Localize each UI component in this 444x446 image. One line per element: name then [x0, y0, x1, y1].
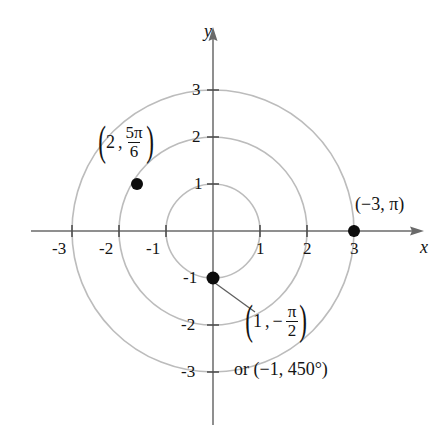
point-label-comma-2: ,: [265, 312, 270, 330]
x-axis-arrowhead: [410, 227, 424, 236]
point-label-radius: 2: [106, 133, 115, 151]
x-axis-label: x: [420, 238, 428, 256]
coordinate-plane-graphic: [0, 0, 444, 446]
theta-denominator: 6: [128, 142, 141, 161]
x-tick-label-3: 3: [350, 240, 359, 257]
right-paren-glyph-2: ): [299, 305, 307, 337]
point-label-comma: ,: [118, 133, 123, 151]
plot-point-1-neg-pi-2: [207, 272, 220, 285]
theta-numerator-2: π: [286, 303, 299, 321]
theta-denominator-2: 2: [286, 321, 299, 340]
y-tick-label--3: -3: [181, 363, 195, 380]
x-tick-label--3: -3: [52, 240, 66, 257]
y-tick-label--1: -1: [183, 269, 197, 286]
y-tick-label-2: 2: [192, 128, 201, 145]
point-label-2-5pi-6: ( 2 , 5π 6 ): [95, 124, 157, 160]
alternate-point-label: or (−1, 450°): [234, 360, 328, 378]
plot-point-2-5pi-6: [131, 178, 143, 190]
theta-fraction-2: π 2: [286, 303, 299, 339]
y-tick-label-1: 1: [194, 175, 203, 192]
polar-coordinates-figure: y x -3 -2 -1 1 2 3 3 2 1 -1 -2 -3 ( 2 , …: [0, 0, 444, 446]
point-label-radius-2: 1: [253, 312, 262, 330]
y-tick-label-3: 3: [192, 81, 201, 98]
x-tick-label--2: -2: [99, 240, 113, 257]
x-tick-label-1: 1: [256, 240, 265, 257]
left-paren-glyph: (: [98, 126, 106, 158]
right-paren-glyph: ): [146, 126, 154, 158]
point-label-neg3-pi: (−3, π): [355, 195, 404, 213]
point-label-1-neg-pi-2: ( 1 , − π 2 ): [242, 303, 310, 339]
y-tick-label--2: -2: [181, 316, 195, 333]
theta-fraction: 5π 6: [124, 124, 145, 160]
left-paren-glyph-2: (: [245, 305, 253, 337]
theta-numerator: 5π: [124, 124, 145, 142]
theta-minus-sign: −: [273, 312, 283, 330]
x-tick-label-2: 2: [303, 240, 312, 257]
x-tick-label--1: -1: [146, 240, 160, 257]
y-axis-label: y: [204, 22, 212, 40]
plot-point-neg3-pi: [348, 225, 360, 237]
